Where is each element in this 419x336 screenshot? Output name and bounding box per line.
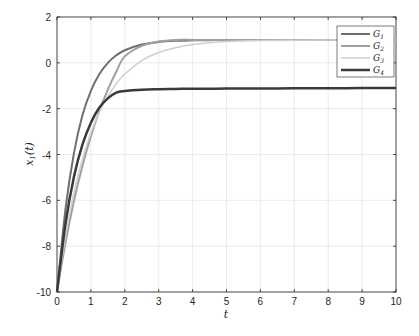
x-tick-label: 2 (122, 296, 128, 307)
y-tick-label: 0 (45, 58, 51, 69)
y-tick-label: -2 (42, 104, 51, 115)
x-tick-label: 6 (258, 296, 264, 307)
legend: G1G2G3G4 (337, 26, 394, 77)
y-tick-label: -6 (42, 195, 51, 206)
x-tick-label: 0 (54, 296, 60, 307)
x-tick-label: 1 (88, 296, 94, 307)
x-tick-label: 3 (156, 296, 162, 307)
y-tick-label: -4 (42, 150, 51, 161)
x-tick-label: 8 (325, 296, 331, 307)
y-tick-label: -8 (42, 241, 51, 252)
chart: 012345678910 -10-8-6-4-202 t x1(t) G1G2G… (0, 0, 419, 336)
x-tick-label: 9 (359, 296, 365, 307)
x-tick-label: 4 (190, 296, 196, 307)
y-tick-label: -10 (37, 287, 52, 298)
x-tick-label: 10 (390, 296, 402, 307)
x-axis-label: t (224, 308, 229, 321)
y-tick-label: 2 (45, 12, 51, 23)
y-axis-label: x1(t) (23, 142, 37, 166)
x-tick-label: 5 (224, 296, 230, 307)
x-tick-label: 7 (292, 296, 298, 307)
